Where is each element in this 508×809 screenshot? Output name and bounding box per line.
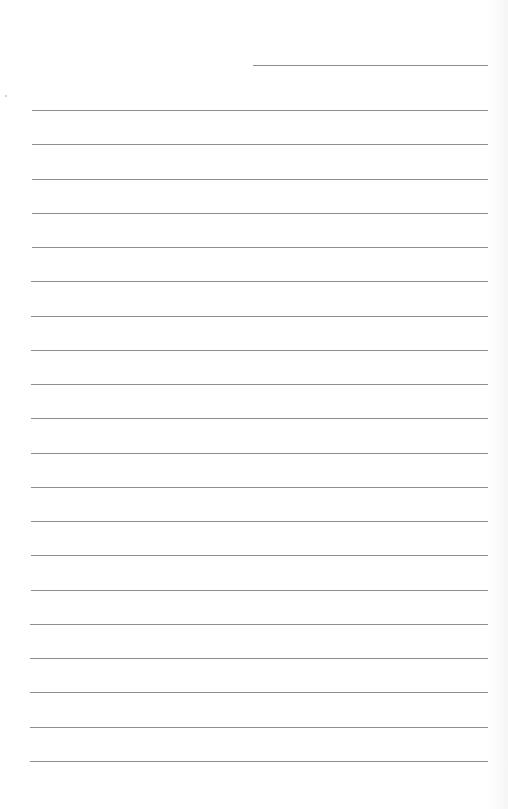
ruled-line (31, 487, 488, 488)
header-rule (253, 65, 488, 66)
ruled-line (30, 658, 488, 659)
ruled-line (31, 521, 488, 522)
ruled-line (30, 624, 488, 625)
ruled-line (30, 692, 488, 693)
ruled-line (31, 555, 488, 556)
ruled-line (32, 179, 488, 180)
scan-speck (5, 95, 7, 97)
ruled-line (30, 761, 488, 762)
ruled-line (31, 453, 488, 454)
ruled-line (31, 384, 488, 385)
ruled-line (31, 350, 488, 351)
ruled-line (32, 247, 488, 248)
ruled-line (31, 590, 488, 591)
ruled-line (32, 144, 488, 145)
ruled-line (31, 316, 488, 317)
ruled-line (32, 110, 488, 111)
ruled-line (31, 418, 488, 419)
ruled-line (32, 213, 488, 214)
ruled-line (30, 727, 488, 728)
ruled-line (31, 281, 488, 282)
lined-page (0, 0, 508, 809)
